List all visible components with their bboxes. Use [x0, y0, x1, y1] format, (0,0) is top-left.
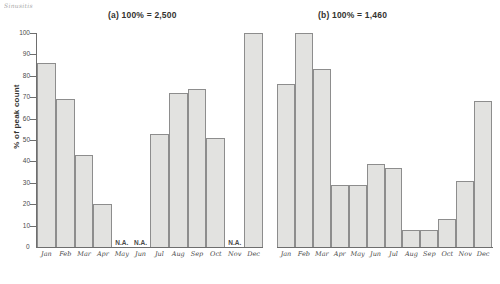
bar-slot [56, 33, 75, 247]
y-axis-tick-label: 90 [4, 50, 30, 57]
bar [402, 230, 420, 247]
bar-slot [420, 33, 438, 247]
bar-slot [150, 33, 169, 247]
bar-slot [37, 33, 56, 247]
y-axis-tick-label: 30 [4, 179, 30, 186]
bar-slot [93, 33, 112, 247]
x-axis-label: Jul [150, 250, 169, 264]
handwritten-annotation: Sinusitis [4, 2, 33, 9]
bar-slot [169, 33, 188, 247]
bar [188, 89, 207, 247]
x-axis-label: Mar [313, 250, 331, 264]
bar [277, 84, 295, 247]
bar [474, 101, 492, 247]
bar-slot [206, 33, 225, 247]
bar-slot [295, 33, 313, 247]
x-axis-label: Apr [331, 250, 349, 264]
y-axis-tick-label: 20 [4, 200, 30, 207]
x-axis-label: Sep [420, 250, 438, 264]
bar-slot [367, 33, 385, 247]
bar [93, 204, 112, 247]
bar-slot [349, 33, 367, 247]
bar-slot [244, 33, 263, 247]
y-axis-tick [30, 161, 37, 162]
bar [313, 69, 331, 247]
y-axis-tick-label: 60 [4, 115, 30, 122]
y-axis-tick [30, 226, 37, 227]
x-axis-label: Dec [474, 250, 492, 264]
x-axis-label: Nov [456, 250, 474, 264]
bar [420, 230, 438, 247]
bar-slot [438, 33, 456, 247]
bar [349, 185, 367, 247]
x-axis-label: Jul [385, 250, 403, 264]
y-axis-tick [30, 119, 37, 120]
y-axis-tick [30, 76, 37, 77]
y-axis-tick [30, 54, 37, 55]
bar-slot: N.A. [225, 33, 244, 247]
y-axis-tick [30, 183, 37, 184]
bar [367, 164, 385, 247]
chart-panel-a: N.A.N.A.N.A. [37, 33, 263, 247]
bar [75, 155, 94, 247]
y-axis-zero-label: 0 [26, 243, 30, 250]
y-axis-tick-label: 40 [4, 157, 30, 164]
y-axis-tick-label: 100 [4, 29, 30, 36]
bar [169, 93, 188, 247]
bar-slot: N.A. [131, 33, 150, 247]
x-axis-label: Dec [244, 250, 263, 264]
bar [37, 63, 56, 247]
panel-a-title: (a) 100% = 2,500 [108, 10, 177, 20]
panel-a-bars: N.A.N.A.N.A. [37, 33, 263, 247]
bar-slot [313, 33, 331, 247]
y-axis-tick-label: 80 [4, 72, 30, 79]
x-axis-label: Oct [438, 250, 456, 264]
x-axis-label: Aug [402, 250, 420, 264]
bar [295, 33, 313, 247]
x-axis-label: Jun [367, 250, 385, 264]
x-axis-label: May [112, 250, 131, 264]
x-axis-label: Apr [93, 250, 112, 264]
x-axis-label: Jan [277, 250, 295, 264]
bar-slot [331, 33, 349, 247]
bar-slot: N.A. [112, 33, 131, 247]
bar [456, 181, 474, 247]
x-axis-label: Aug [169, 250, 188, 264]
x-axis-label: Feb [56, 250, 75, 264]
x-axis-label: Mar [75, 250, 94, 264]
bar-na-label: N.A. [228, 239, 241, 246]
bar-slot [75, 33, 94, 247]
bar [385, 168, 403, 247]
x-axis-label: Jun [131, 250, 150, 264]
bar-na-label: N.A. [115, 239, 128, 246]
panel-b-bars [277, 33, 492, 247]
x-axis-label: Jan [37, 250, 56, 264]
y-axis-tick-label: 50 [4, 136, 30, 143]
bar [150, 134, 169, 247]
bar-slot [474, 33, 492, 247]
panel-b-baseline [277, 247, 493, 248]
x-axis-label: Nov [225, 250, 244, 264]
y-axis-tick [30, 140, 37, 141]
bar-slot [456, 33, 474, 247]
panel-a-baseline [36, 247, 263, 248]
panel-a-x-labels: JanFebMarAprMayJunJulAugSepOctNovDec [37, 250, 263, 264]
bar [438, 219, 456, 247]
bar [244, 33, 263, 247]
bar-slot [277, 33, 295, 247]
x-axis-label: Feb [295, 250, 313, 264]
y-axis-tick-label: 10 [4, 222, 30, 229]
bar-slot [402, 33, 420, 247]
bar-slot [385, 33, 403, 247]
panel-b-title: (b) 100% = 1,460 [318, 10, 387, 20]
panel-b-x-labels: JanFebMarAprMayJunJulAugSepOctNovDec [277, 250, 492, 264]
bar-na-label: N.A. [134, 239, 147, 246]
chart-panel-b [277, 33, 492, 247]
x-axis-label: Oct [206, 250, 225, 264]
x-axis-label: May [349, 250, 367, 264]
y-axis-tick [30, 204, 37, 205]
bar [206, 138, 225, 247]
bar [56, 99, 75, 247]
y-axis-tick [30, 97, 37, 98]
x-axis-label: Sep [188, 250, 207, 264]
